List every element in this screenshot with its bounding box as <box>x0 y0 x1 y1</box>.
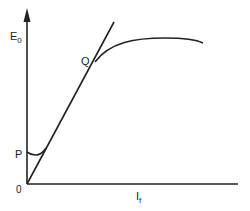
air-gap-line <box>27 22 114 184</box>
x-axis-label: If <box>136 190 142 205</box>
diagram-canvas: E0 P Q 0 If <box>0 0 250 211</box>
y-axis-label: E0 <box>10 30 22 45</box>
point-p-label: P <box>15 148 22 160</box>
point-q-label: Q <box>81 55 90 67</box>
saturation-curve-q <box>95 38 203 62</box>
y-axis-arrow-icon <box>24 8 31 22</box>
origin-label: 0 <box>16 184 22 195</box>
